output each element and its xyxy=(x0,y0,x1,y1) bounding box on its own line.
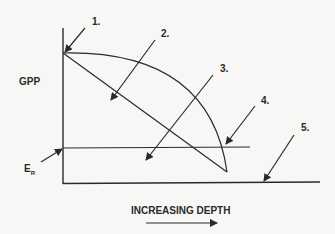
callout-label-3: 3. xyxy=(220,63,229,74)
callout-label-4: 4. xyxy=(261,95,270,106)
x-axis-baseline xyxy=(63,182,320,184)
callout-label-5: 5. xyxy=(301,122,310,133)
callout-label-1: 1. xyxy=(92,16,101,27)
arrow-1 xyxy=(65,28,85,52)
linear-gpp-line xyxy=(63,53,227,172)
gpp-depth-diagram: 1. 2. 3. 4. 5. GPP ER INCREASING DEPTH xyxy=(0,0,335,234)
arrow-5 xyxy=(264,135,294,181)
er-label-sub: R xyxy=(31,170,36,176)
y-axis-label: GPP xyxy=(19,76,40,87)
arrow-2 xyxy=(111,40,155,100)
x-axis-label: INCREASING DEPTH xyxy=(131,205,230,216)
callout-label-2: 2. xyxy=(161,28,170,39)
er-label: ER xyxy=(24,163,36,176)
arrow-er xyxy=(41,149,62,162)
arrow-4 xyxy=(226,106,255,144)
